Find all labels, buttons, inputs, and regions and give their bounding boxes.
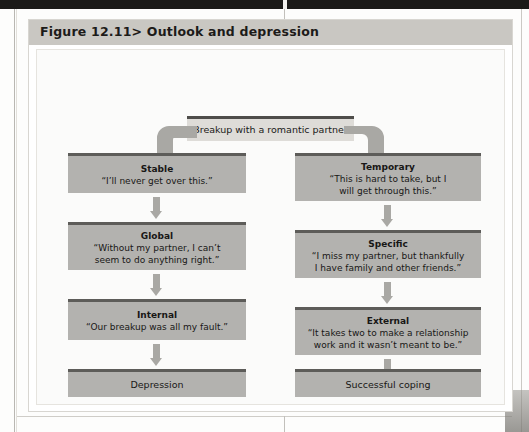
node-temporary-title: Temporary: [361, 161, 415, 173]
arrow-global-to-internal: [150, 274, 163, 296]
node-temporary: Temporary “This is hard to take, but I w…: [295, 153, 481, 201]
node-depression-label: Depression: [130, 379, 183, 391]
node-global-title: Global: [141, 230, 173, 242]
node-global: Global “Without my partner, I can’t seem…: [68, 222, 246, 270]
node-specific-quote-line2: I have family and other friends.”: [315, 262, 461, 274]
page-gutter-rule: [14, 9, 15, 432]
figure-title-bar: Figure 12.11> Outlook and depression: [29, 20, 512, 45]
page-bottom-rule: [17, 416, 512, 417]
node-stable: Stable “I’ll never get over this.”: [68, 153, 246, 193]
node-stable-quote: “I’ll never get over this.”: [101, 175, 212, 187]
node-breakup: Breakup with a romantic partner: [187, 116, 354, 141]
scan-edge-gap: [283, 0, 287, 9]
node-temporary-quote-line1: “This is hard to take, but I: [330, 173, 447, 185]
arrow-temporary-to-specific: [381, 205, 394, 227]
arrow-internal-to-depression: [150, 344, 163, 366]
node-breakup-label: Breakup with a romantic partner: [193, 124, 348, 136]
arrow-specific-to-external: [381, 282, 394, 304]
node-global-quote-line2: seem to do anything right.”: [95, 254, 220, 266]
node-internal-quote: “Our breakup was all my fault.”: [86, 321, 228, 333]
node-stable-title: Stable: [141, 163, 174, 175]
node-successful-coping-label: Successful coping: [345, 379, 430, 391]
node-external-quote-line2: work and it wasn’t meant to be.”: [314, 339, 462, 351]
column-divider-bottom: [284, 416, 285, 432]
node-external-title: External: [367, 315, 409, 327]
node-successful-coping: Successful coping: [295, 369, 481, 397]
node-specific: Specific “I miss my partner, but thankfu…: [295, 230, 481, 278]
figure-body: Breakup with a romantic partner Stable “…: [37, 50, 504, 404]
node-temporary-quote-line2: will get through this.”: [339, 185, 437, 197]
node-global-quote-line1: “Without my partner, I can’t: [94, 242, 221, 254]
node-external: External “It takes two to make a relatio…: [295, 307, 481, 355]
node-external-quote-line1: “It takes two to make a relationship: [308, 327, 469, 339]
page-gutter-rule-secondary: [16, 9, 17, 432]
scan-edge-top: [0, 0, 529, 9]
figure-title: Figure 12.11> Outlook and depression: [40, 24, 319, 39]
node-specific-title: Specific: [368, 238, 407, 250]
arrow-stable-to-global: [150, 197, 163, 219]
figure-container: Figure 12.11> Outlook and depression Bre…: [29, 20, 512, 411]
node-internal: Internal “Our breakup was all my fault.”: [68, 299, 246, 340]
node-depression: Depression: [68, 369, 246, 397]
page-right-rule: [521, 9, 522, 432]
node-specific-quote-line1: “I miss my partner, but thankfully: [312, 250, 464, 262]
node-internal-title: Internal: [137, 309, 177, 321]
